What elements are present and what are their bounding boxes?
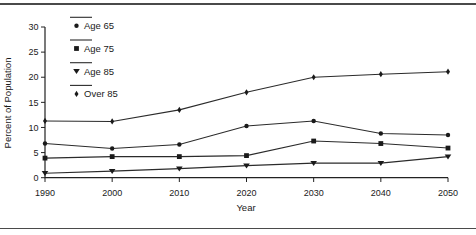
x-tick-label: 2010 [169, 188, 189, 198]
figure-bottom-rule [0, 228, 476, 229]
figure-top-rule [0, 3, 476, 5]
chart-canvas: 0510152025301990200020102020203020402050… [0, 0, 476, 235]
data-point-marker [245, 89, 249, 95]
legend-row: Age 65 [70, 17, 114, 31]
legend-row: Age 75 [70, 40, 114, 54]
y-tick-label: 0 [33, 173, 38, 183]
data-point-marker [43, 156, 48, 161]
data-point-marker [379, 71, 383, 77]
y-tick-label: 10 [28, 123, 38, 133]
data-point-marker [446, 69, 450, 75]
legend-label: Age 75 [84, 43, 114, 54]
legend-row: Age 85 [70, 63, 114, 77]
data-point-marker [311, 139, 316, 144]
x-tick-label: 2050 [438, 188, 458, 198]
legend-label: Age 65 [84, 20, 114, 31]
y-tick-label: 5 [33, 148, 38, 158]
y-tick-label: 30 [28, 22, 38, 32]
data-point-marker [379, 131, 383, 135]
data-point-marker [177, 107, 181, 113]
x-tick-label: 2020 [236, 188, 256, 198]
x-tick-label: 2040 [371, 188, 391, 198]
legend: Age 65Age 75Age 85Over 85 [70, 17, 118, 99]
data-point-marker [110, 146, 114, 150]
data-point-marker [311, 119, 315, 123]
legend-circle-marker-icon [74, 24, 78, 28]
legend-row: Over 85 [70, 85, 118, 99]
legend-diamond-marker-icon [75, 91, 79, 97]
legend-square-marker-icon [74, 46, 79, 51]
data-point-marker [446, 146, 451, 151]
data-point-marker [177, 154, 182, 159]
y-tick-label: 25 [28, 47, 38, 57]
line-chart-figure: 0510152025301990200020102020203020402050… [0, 0, 476, 235]
data-point-marker [312, 74, 316, 80]
y-axis-title: Percent of Population [2, 58, 13, 149]
y-tick-label: 15 [28, 98, 38, 108]
data-point-marker [177, 142, 181, 146]
legend-triangle-down-marker-icon [73, 69, 80, 74]
data-point-marker [110, 118, 114, 124]
data-point-marker [378, 141, 383, 146]
x-tick-label: 1990 [35, 188, 55, 198]
data-point-marker [446, 133, 450, 137]
legend-label: Age 85 [84, 66, 114, 77]
x-axis-title: Year [236, 202, 255, 213]
data-point-marker [43, 141, 47, 145]
y-tick-label: 20 [28, 72, 38, 82]
legend-label: Over 85 [84, 88, 118, 99]
x-tick-label: 2000 [102, 188, 122, 198]
x-tick-label: 2030 [304, 188, 324, 198]
data-point-marker [244, 124, 248, 128]
data-point-marker [110, 154, 115, 159]
data-point-marker [43, 118, 47, 124]
data-point-marker [244, 153, 249, 158]
